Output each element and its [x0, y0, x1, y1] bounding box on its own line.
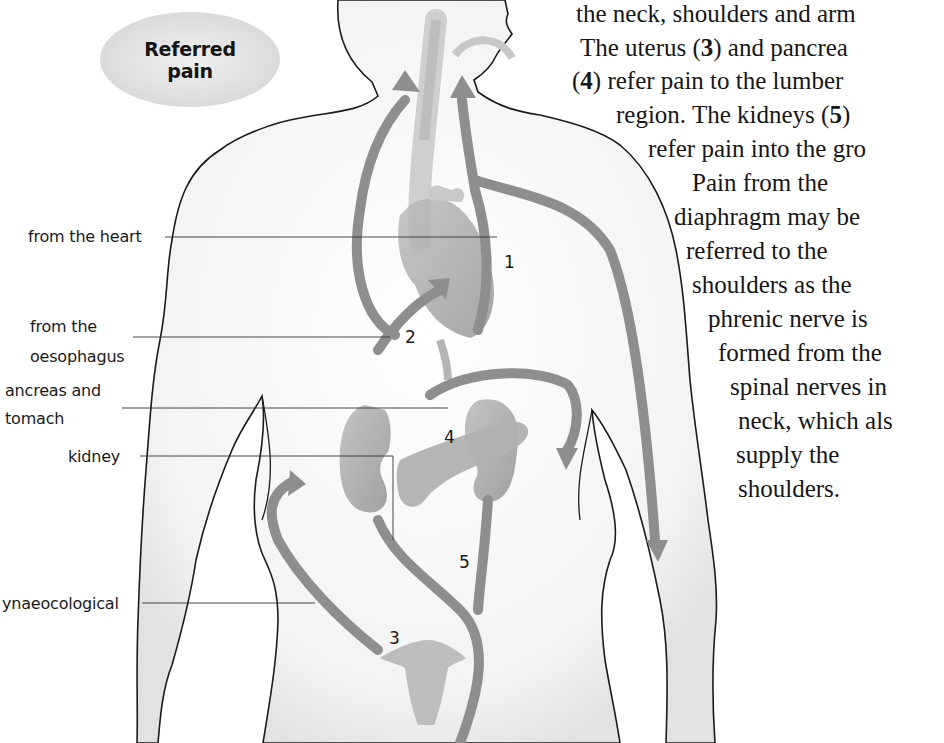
text-line-6: Pain from the [692, 169, 828, 197]
text-line-12: spinal nerves in [730, 373, 887, 401]
label-kidney: kidney [68, 442, 120, 472]
text-line-3: (4) refer pain to the lumber [572, 67, 843, 95]
label-from-heart: from the heart [28, 222, 142, 252]
label-oesophagus-1: from the [30, 312, 97, 342]
marker-1: 1 [504, 252, 515, 272]
label-pancreas-1: ancreas and [5, 376, 101, 406]
referred-pain-badge: Referred pain [100, 12, 280, 107]
marker-2: 2 [405, 327, 416, 347]
marker-3: 3 [389, 628, 400, 648]
marker-5: 5 [459, 552, 470, 572]
label-pancreas-2: tomach [5, 404, 64, 434]
text-line-14: supply the [736, 441, 839, 469]
text-line-5: refer pain into the gro [648, 135, 866, 163]
text-line-4: region. The kidneys (5) [616, 101, 850, 129]
text-line-15: shoulders. [738, 475, 840, 503]
badge-line1: Referred [144, 38, 236, 60]
text-line-9: shoulders as the [692, 271, 852, 299]
badge-line2: pain [167, 60, 212, 82]
label-gynaecological: ynaeocological [2, 589, 119, 619]
text-line-8: referred to the [686, 237, 828, 265]
text-line-10: phrenic nerve is [708, 305, 868, 333]
marker-4: 4 [444, 427, 455, 447]
text-line-11: formed from the [718, 339, 882, 367]
text-line-2: The uterus (3) and pancrea [580, 34, 848, 62]
label-oesophagus-2: oesophagus [30, 342, 125, 372]
text-line-7: diaphragm may be [674, 203, 860, 231]
text-line-1: the neck, shoulders and arm [576, 0, 856, 28]
text-line-13: neck, which als [738, 407, 893, 435]
